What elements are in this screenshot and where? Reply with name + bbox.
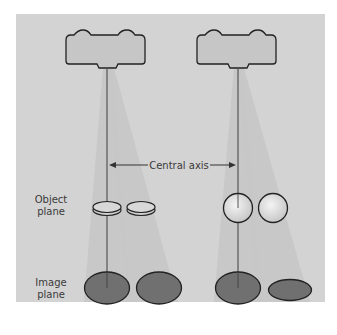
- xray-tube-right: [197, 30, 276, 68]
- image-right-2-distorted: [269, 280, 312, 301]
- projection-geometry-diagram: Central axis Object plane Image plane: [0, 0, 337, 335]
- xray-tube-left: [66, 30, 145, 68]
- disc-object-2: [127, 202, 155, 216]
- sphere-object-2: [259, 194, 288, 223]
- image-plane-label-line1: Image: [35, 277, 66, 288]
- disc-object-1: [93, 202, 121, 216]
- image-plane-label-line2: plane: [37, 289, 65, 300]
- object-plane-label-line2: plane: [37, 206, 65, 217]
- central-axis-label: Central axis: [149, 160, 209, 171]
- image-left-2: [137, 272, 182, 304]
- object-plane-label-line1: Object: [35, 194, 68, 205]
